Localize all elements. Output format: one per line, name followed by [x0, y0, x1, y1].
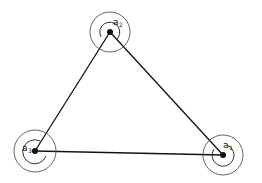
node-a2: a 2	[90, 12, 130, 52]
triangle-diagram: a 2 a 3 a 1	[0, 0, 262, 183]
edges	[35, 32, 223, 155]
node-label: a	[113, 17, 119, 27]
node-subscript: 1	[229, 144, 233, 151]
node-label: a	[223, 140, 229, 150]
node-dot	[220, 152, 226, 158]
edge-a3-a1	[35, 151, 223, 155]
node-subscript: 2	[119, 21, 123, 28]
node-dot	[32, 148, 38, 154]
edge-a2-a1	[110, 32, 223, 155]
node-label: a	[22, 143, 28, 153]
node-subscript: 3	[28, 147, 32, 154]
node-dot	[107, 29, 113, 35]
